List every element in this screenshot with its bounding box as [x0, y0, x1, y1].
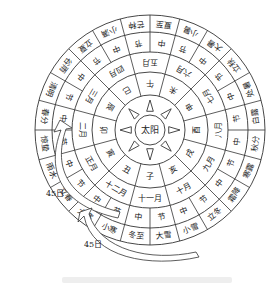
branch-label: 子 [146, 172, 154, 181]
jie-zhong-label: 中 [74, 71, 87, 83]
branch-label: 午 [146, 79, 154, 89]
solar-term-label: 大雪 [155, 229, 172, 241]
month-label: 十一月 [138, 193, 162, 203]
month-label: 四月 [107, 63, 125, 79]
jie-zhong-label: 节 [214, 71, 226, 83]
branch-label: 卯 [99, 126, 108, 134]
sun-ray-icon [129, 109, 139, 119]
solar-term-label: 处暑 [240, 80, 255, 99]
solar-term-label: 小暑 [182, 24, 200, 38]
solar-term-label: 清明 [44, 80, 59, 99]
solar-terms-wheel: 夏至小暑大暑立秋处暑白露秋分寒露霜降立冬小雪大雪冬至小寒大寒立春雨水惊蛰春分清明… [0, 0, 278, 287]
solar-term-label: 冬至 [128, 229, 145, 241]
sun-label: 太阳 [141, 124, 159, 135]
figure-caption [62, 277, 232, 283]
solar-term-label: 寒露 [240, 161, 255, 180]
jie-zhong-label: 节 [232, 114, 242, 123]
jie-zhong-label: 节 [74, 178, 86, 190]
jie-zhong-label: 中 [63, 158, 75, 169]
month-label: 八月 [214, 122, 223, 138]
jie-zhong-label: 中 [111, 43, 122, 55]
sun-ray-icon [147, 100, 154, 111]
interval-label-lower: 45日 [84, 240, 102, 249]
jie-zhong-label: 节 [178, 43, 189, 54]
jie-zhong-label: 中 [225, 91, 237, 102]
sun-ray-icon [169, 127, 180, 134]
jie-zhong-label: 中 [157, 38, 166, 49]
branch-label: 亥 [167, 164, 179, 177]
branch-label: 酉 [192, 126, 201, 134]
branch-label: 戌 [184, 147, 197, 159]
month-label: 六月 [174, 63, 193, 80]
month-label: 五月 [142, 58, 158, 67]
solar-term-label: 秋分 [249, 135, 261, 152]
jie-zhong-label: 节 [226, 158, 237, 169]
solar-term-label: 夏至 [155, 19, 172, 30]
sun-ray-icon [147, 149, 154, 160]
branch-label: 寅 [104, 147, 117, 159]
jie-zhong-label: 节 [63, 91, 74, 102]
month-label: 三月 [83, 87, 99, 105]
month-label: 七月 [201, 87, 217, 105]
solar-term-label: 小雪 [182, 221, 200, 235]
jie-zhong-label: 中 [213, 177, 226, 189]
month-label: 九月 [201, 155, 217, 173]
solar-term-label: 惊蛰 [39, 135, 51, 152]
solar-term-label: 小满 [100, 24, 119, 39]
jie-zhong-label: 节 [157, 212, 166, 222]
month-label: 二月 [78, 122, 87, 138]
sun-ray-icon [120, 127, 131, 134]
sun-ray-icon [161, 141, 171, 151]
solar-term-label: 芒种 [128, 19, 145, 31]
jie-zhong-label: 中 [178, 205, 189, 217]
solar-term-label: 白露 [249, 108, 261, 125]
branch-label: 未 [167, 84, 179, 97]
solar-term-label: 小寒 [100, 220, 119, 235]
jie-zhong-label: 中 [231, 137, 242, 146]
month-label: 正月 [83, 155, 99, 173]
jie-zhong-label: 中 [197, 54, 209, 67]
jie-zhong-label: 节 [198, 194, 210, 206]
month-label: 十月 [174, 180, 193, 197]
jie-zhong-label: 节 [134, 38, 143, 48]
interval-label-upper: 45日 [46, 189, 64, 198]
branch-label: 申 [184, 101, 197, 113]
branch-label: 巳 [121, 84, 132, 96]
jie-zhong-label: 节 [91, 54, 103, 66]
branch-label: 丑 [121, 164, 132, 176]
jie-zhong-label: 中 [134, 211, 143, 222]
sun-ray-icon [161, 109, 171, 119]
branch-label: 辰 [104, 101, 116, 112]
solar-term-label: 春分 [39, 108, 51, 125]
sun-ray-icon [129, 141, 139, 151]
